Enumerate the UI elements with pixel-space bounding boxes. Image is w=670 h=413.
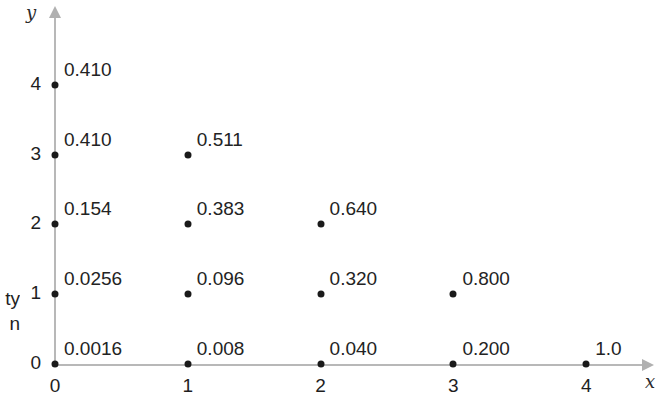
x-axis-label: x xyxy=(645,371,655,392)
data-point-value-label: 1.0 xyxy=(595,338,621,360)
data-point-value-label: 0.511 xyxy=(197,129,243,151)
data-point-value-label: 0.640 xyxy=(330,198,378,220)
data-point[interactable] xyxy=(184,221,191,228)
data-point-value-label: 0.320 xyxy=(330,268,378,290)
data-point-value-label: 0.0016 xyxy=(64,338,122,360)
data-point-value-label: 0.200 xyxy=(462,338,510,360)
scatter-plot-canvas: y x ty n 01234 01234 0.4100.4100.1540.02… xyxy=(0,0,670,413)
data-point[interactable] xyxy=(52,151,59,158)
data-point-value-label: 0.383 xyxy=(197,198,245,220)
data-point-value-label: 0.0256 xyxy=(64,268,122,290)
data-point-value-label: 0.040 xyxy=(330,338,378,360)
x-tick-label: 0 xyxy=(35,375,75,397)
data-point-value-label: 0.800 xyxy=(462,268,510,290)
data-point[interactable] xyxy=(583,361,590,368)
data-point[interactable] xyxy=(184,291,191,298)
y-tick-label: 2 xyxy=(13,212,41,234)
data-point[interactable] xyxy=(317,221,324,228)
data-point[interactable] xyxy=(184,361,191,368)
data-point[interactable] xyxy=(450,361,457,368)
data-point[interactable] xyxy=(450,291,457,298)
caption-fragment-line-2: n xyxy=(0,313,20,335)
x-tick-label: 4 xyxy=(566,375,606,397)
y-axis-line xyxy=(54,18,56,366)
data-point[interactable] xyxy=(52,361,59,368)
x-axis-arrow-icon xyxy=(642,359,654,371)
x-tick-label: 2 xyxy=(301,375,341,397)
x-tick-label: 1 xyxy=(168,375,208,397)
data-point[interactable] xyxy=(52,221,59,228)
data-point-value-label: 0.410 xyxy=(64,59,112,81)
y-tick-label: 0 xyxy=(13,352,41,374)
x-axis-line xyxy=(54,364,642,366)
data-point[interactable] xyxy=(184,151,191,158)
x-tick-label: 3 xyxy=(433,375,473,397)
y-axis-arrow-icon xyxy=(49,6,61,18)
y-tick-label: 4 xyxy=(13,73,41,95)
data-point-value-label: 0.410 xyxy=(64,129,112,151)
data-point-value-label: 0.008 xyxy=(197,338,245,360)
y-tick-label: 1 xyxy=(13,282,41,304)
data-point[interactable] xyxy=(317,361,324,368)
data-point[interactable] xyxy=(317,291,324,298)
y-tick-label: 3 xyxy=(13,143,41,165)
data-point-value-label: 0.096 xyxy=(197,268,245,290)
data-point[interactable] xyxy=(52,81,59,88)
data-point[interactable] xyxy=(52,291,59,298)
data-point-value-label: 0.154 xyxy=(64,198,112,220)
y-axis-label: y xyxy=(26,2,36,23)
